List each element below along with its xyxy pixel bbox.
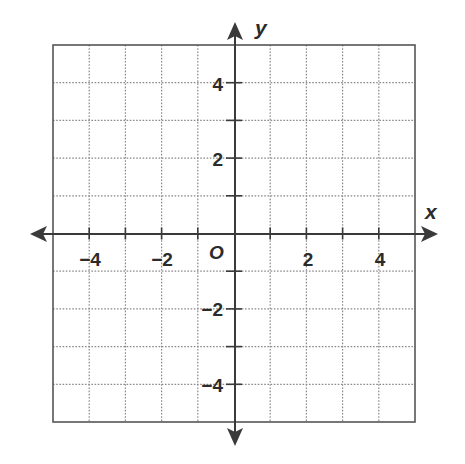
y-axis-label: y [254,16,268,39]
y-tick-label: −2 [201,299,223,320]
coordinate-plane: x y O −4 −2 2 4 4 2 −2 −4 [0,0,465,464]
y-tick-label: 2 [212,149,223,170]
y-tick-label: −4 [201,375,223,396]
x-tick-label: −4 [79,249,101,270]
y-tick-label: 4 [212,74,223,95]
x-tick-label: 4 [375,249,386,270]
x-tick-label: 2 [303,249,314,270]
origin-label: O [209,242,224,263]
x-axis-label: x [424,200,438,223]
x-tick-label: −2 [151,249,173,270]
